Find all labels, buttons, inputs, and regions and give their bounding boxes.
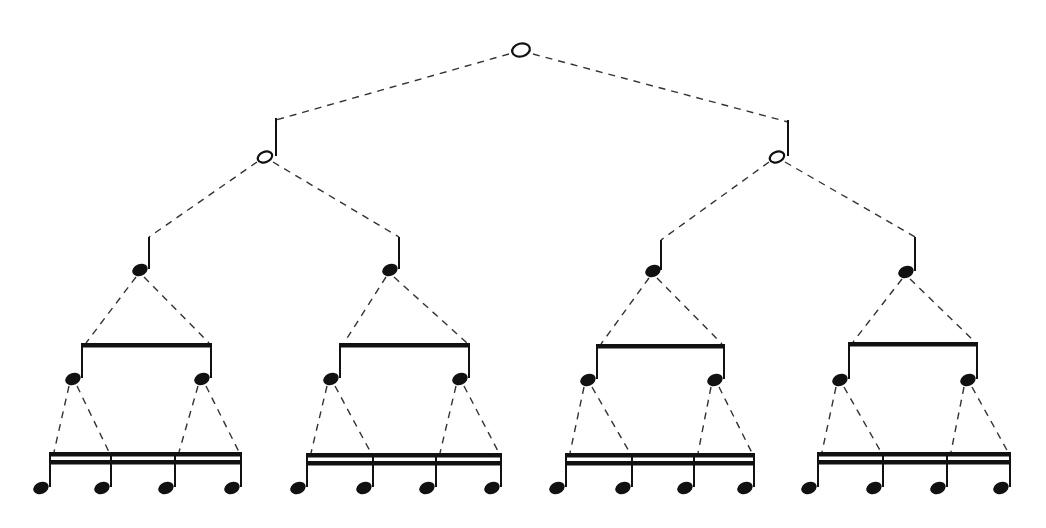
- dashed-connector: [273, 162, 399, 237]
- dashed-connector: [910, 279, 975, 342]
- dashed-connector: [149, 162, 257, 237]
- sixteenth-note-icon: [991, 480, 1010, 497]
- eighth-note-icon: [450, 371, 469, 388]
- sixteenth-note-icon: [928, 480, 947, 497]
- dashed-connectors: [54, 54, 1008, 453]
- sixteenth-note-icon: [675, 480, 694, 497]
- eighth-note-icon: [192, 371, 211, 388]
- quarter-note-icon: [643, 263, 662, 280]
- sixteenth-note-icon: [222, 480, 241, 497]
- eighth-note-icon: [958, 372, 977, 389]
- sixteenth-note-icon: [864, 480, 883, 497]
- dashed-connector: [394, 277, 467, 343]
- dashed-connector: [972, 387, 1008, 452]
- sixteenth-note-icon: [92, 480, 111, 497]
- quarter-note-icon: [380, 262, 399, 279]
- note-subdivision-diagram: [0, 0, 1046, 528]
- sixteenth-note-icon: [31, 480, 50, 497]
- dashed-connector: [951, 387, 964, 452]
- sixteenth-note-icon: [735, 480, 754, 497]
- dashed-connector: [440, 386, 456, 453]
- dashed-connector: [335, 386, 371, 453]
- sixteenth-note-icon: [799, 480, 818, 497]
- sixteenth-beam-upper: [817, 452, 1011, 457]
- dashed-connector: [844, 387, 881, 452]
- dashed-connector: [179, 386, 198, 452]
- eighth-note-icon: [321, 371, 340, 388]
- dashed-connector: [86, 277, 136, 343]
- dashed-connector: [344, 277, 386, 343]
- quarter-note-icon: [130, 262, 149, 279]
- sixteenth-beam-lower: [565, 461, 755, 466]
- quarter-note-icon: [896, 264, 915, 281]
- eighth-beam: [81, 343, 212, 348]
- sixteenth-beam-upper: [565, 453, 755, 458]
- whole-note-icon: [511, 41, 532, 58]
- eighth-note-icon: [63, 371, 82, 388]
- dashed-connector: [464, 386, 499, 453]
- dashed-connector: [719, 387, 752, 453]
- dashed-connector: [206, 386, 239, 452]
- eighth-beam: [339, 343, 470, 348]
- dashed-connector: [592, 387, 630, 453]
- sixteenth-note-icon: [613, 480, 632, 497]
- dashed-connector: [276, 54, 509, 120]
- sixteenth-beam-lower: [306, 461, 502, 466]
- dashed-connector: [54, 386, 69, 452]
- half-note-icon: [768, 149, 786, 164]
- eighth-beam: [596, 344, 725, 349]
- sixteenth-beam-lower: [49, 460, 242, 465]
- sixteenth-note-icon: [547, 480, 566, 497]
- dashed-connector: [601, 278, 649, 344]
- dashed-connector: [661, 162, 769, 240]
- dashed-connector: [77, 386, 109, 452]
- dashed-connector: [570, 387, 584, 453]
- dashed-connector: [533, 54, 788, 122]
- half-note-icon: [256, 149, 274, 164]
- sixteenth-beam-upper: [306, 453, 502, 458]
- sixteenth-beam-lower: [817, 460, 1011, 465]
- sixteenth-note-icon: [482, 480, 501, 497]
- dashed-connector: [144, 277, 209, 343]
- dashed-connector: [822, 387, 836, 452]
- eighth-note-icon: [830, 372, 849, 389]
- dashed-connector: [311, 386, 327, 453]
- eighth-note-icon: [578, 372, 597, 389]
- notes: [31, 41, 1011, 496]
- sixteenth-note-icon: [417, 480, 436, 497]
- eighth-note-icon: [705, 372, 724, 389]
- sixteenth-note-icon: [288, 480, 307, 497]
- dashed-connector: [657, 278, 722, 344]
- dashed-connector: [698, 387, 711, 453]
- sixteenth-note-icon: [156, 480, 175, 497]
- eighth-beam: [848, 342, 978, 347]
- sixteenth-beam-upper: [49, 452, 242, 457]
- sixteenth-note-icon: [354, 480, 373, 497]
- dashed-connector: [785, 162, 915, 237]
- dashed-connector: [853, 279, 902, 342]
